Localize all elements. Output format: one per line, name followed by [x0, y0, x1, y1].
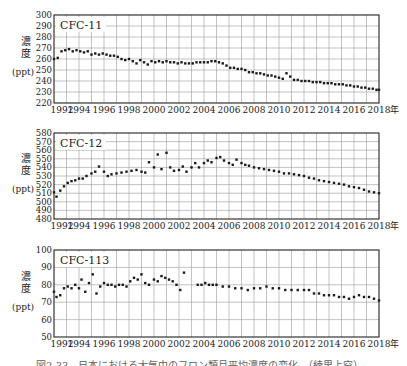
x-tick-label: 1996	[93, 221, 116, 231]
data-point	[90, 53, 92, 55]
data-point	[353, 85, 355, 87]
data-point	[278, 171, 280, 173]
x-tick-label: 2004	[193, 105, 216, 115]
x-tick-label: 2018	[368, 105, 391, 115]
data-point	[259, 287, 261, 289]
data-point	[233, 67, 235, 69]
data-point	[107, 175, 109, 177]
data-point	[228, 285, 230, 287]
data-point	[290, 289, 292, 291]
data-point	[304, 80, 306, 82]
data-point	[122, 284, 124, 286]
data-point	[183, 271, 185, 273]
data-point	[185, 171, 187, 173]
data-point	[120, 58, 122, 60]
data-point	[219, 156, 221, 158]
data-point	[133, 277, 135, 279]
x-tick-label: 1996	[93, 339, 116, 349]
data-point	[188, 62, 190, 64]
data-point	[92, 273, 94, 275]
data-point	[283, 172, 285, 174]
data-point	[289, 75, 291, 77]
data-point	[373, 191, 375, 193]
y-tick-label: 270	[36, 43, 52, 53]
data-point	[110, 173, 112, 175]
data-point	[148, 284, 150, 286]
data-point	[353, 296, 355, 298]
data-point	[182, 165, 184, 167]
data-point	[215, 157, 217, 159]
data-point	[87, 50, 89, 52]
data-point	[334, 83, 336, 85]
data-point	[129, 280, 131, 282]
data-point	[272, 287, 274, 289]
data-point	[59, 189, 61, 191]
chart-svg: CFC-112202302402502602702802903001992199…	[0, 0, 407, 366]
data-point	[200, 284, 202, 286]
data-point	[222, 62, 224, 64]
data-point	[72, 50, 74, 52]
x-tick-label: 2006	[218, 105, 241, 115]
data-point	[328, 294, 330, 296]
data-point	[363, 189, 365, 191]
data-point	[55, 296, 57, 298]
x-tick-label: 2012	[293, 105, 316, 115]
data-point	[75, 49, 77, 51]
data-point	[282, 78, 284, 80]
data-point	[135, 169, 137, 171]
data-point	[203, 61, 205, 63]
data-point	[313, 292, 315, 294]
data-point	[348, 185, 350, 187]
data-point	[124, 59, 126, 61]
data-point	[132, 60, 134, 62]
data-point	[319, 81, 321, 83]
data-point	[94, 52, 96, 54]
data-point	[160, 275, 162, 277]
data-point	[98, 53, 100, 55]
data-point	[172, 280, 174, 282]
x-tick-label: 2010	[268, 221, 291, 231]
data-point	[169, 61, 171, 63]
y-tick-label: 90	[41, 262, 52, 272]
data-point	[90, 172, 92, 174]
data-point	[338, 296, 340, 298]
panel-title: CFC-11	[60, 19, 102, 32]
data-point	[80, 278, 82, 280]
x-tick-label: 1998	[118, 339, 141, 349]
data-point	[323, 180, 325, 182]
data-point	[74, 179, 76, 181]
data-point	[263, 168, 265, 170]
data-point	[70, 287, 72, 289]
data-point	[157, 280, 159, 282]
data-point	[323, 294, 325, 296]
y-tick-label: 560	[36, 145, 52, 155]
data-point	[343, 183, 345, 185]
data-point	[372, 88, 374, 90]
panel-cfc-113: CFC-113506070809010019921994199619982000…	[12, 245, 399, 349]
data-point	[265, 285, 267, 287]
data-point	[244, 69, 246, 71]
data-point	[278, 77, 280, 79]
data-point	[128, 58, 130, 60]
data-point	[180, 61, 182, 63]
data-point	[165, 152, 167, 154]
data-point	[318, 179, 320, 181]
data-point	[373, 298, 375, 300]
x-tick-label: 2014	[318, 105, 341, 115]
data-point	[259, 72, 261, 74]
data-point	[82, 177, 84, 179]
data-point	[368, 88, 370, 90]
data-point	[164, 277, 166, 279]
data-point	[60, 50, 62, 52]
y-axis-unit: (ppt)	[12, 67, 34, 77]
data-point	[215, 284, 217, 286]
data-point	[338, 183, 340, 185]
data-point	[85, 175, 87, 177]
data-point	[253, 287, 255, 289]
data-point	[328, 181, 330, 183]
data-point	[177, 62, 179, 64]
data-point	[248, 164, 250, 166]
data-point	[114, 285, 116, 287]
data-point	[210, 161, 212, 163]
data-point	[178, 169, 180, 171]
